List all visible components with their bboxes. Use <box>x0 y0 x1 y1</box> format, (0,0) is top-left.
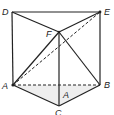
prism-figure: D E F A B A C <box>0 0 114 115</box>
label-E: E <box>104 7 111 17</box>
edge-DA <box>12 12 13 85</box>
edge-DF <box>12 12 59 32</box>
edge-FB <box>59 32 100 85</box>
label-F: F <box>46 29 52 39</box>
edge-AF <box>13 32 59 85</box>
vertex-F-dot <box>58 31 60 33</box>
edge-AE-hidden <box>13 12 100 85</box>
vertex-E-dot <box>99 11 102 14</box>
label-C: C <box>55 108 62 115</box>
prism-diagram: D E F A B A C <box>0 0 114 115</box>
vertex-A-dot <box>11 83 14 86</box>
label-A-inner: A <box>62 90 69 100</box>
label-D: D <box>2 7 9 17</box>
dashed-edges <box>13 12 100 85</box>
label-A: A <box>1 81 8 91</box>
base-shading <box>13 85 100 106</box>
label-B: B <box>104 80 110 90</box>
